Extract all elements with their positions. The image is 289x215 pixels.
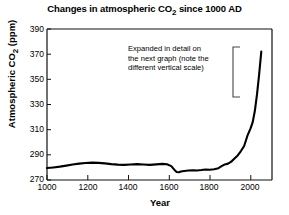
plot-frame — [47, 29, 272, 180]
co2-chart-figure: Changes in atmospheric CO2 since 1000 AD… — [0, 0, 289, 215]
co2-data-line — [47, 52, 261, 173]
chart-canvas — [0, 0, 289, 215]
annotation-bracket-icon — [233, 47, 240, 97]
x-axis-ticks — [47, 175, 251, 180]
